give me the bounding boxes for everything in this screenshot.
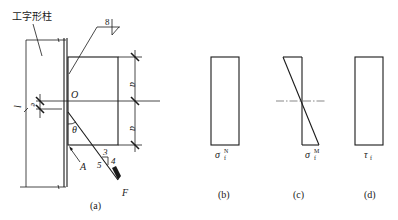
slope-4-label: 4 [111, 156, 116, 166]
caption-a: (a) [90, 200, 101, 212]
sigma-m-sub: f [314, 155, 316, 161]
slope-triangle [102, 157, 108, 165]
sigma-n-symbol: σ [215, 149, 221, 160]
column-label: 工字形柱 [12, 10, 52, 22]
flange-tick-bottom [58, 185, 59, 189]
slope-5-label: 5 [97, 160, 102, 170]
panel-c: σ M f (c) [276, 57, 325, 201]
dim-e-label: e [29, 103, 38, 107]
dim-l-label: l [12, 105, 23, 108]
panel-b: σ N f (b) [211, 57, 239, 201]
sigma-n-sub: f [224, 155, 226, 161]
sigma-m-sup: M [314, 148, 320, 154]
weld-leader [69, 27, 97, 74]
point-a-arrow-icon [69, 146, 73, 151]
weld-connection-diagram: a a e l 工字形柱 8 O F θ 3 4 5 [0, 0, 398, 220]
stress-diagram-shear [355, 57, 383, 145]
dim-a-top-label: a [128, 82, 139, 87]
sigma-m-symbol: σ [305, 149, 311, 160]
stress-diagram-normal [211, 57, 239, 145]
weld-size-label: 8 [105, 17, 110, 27]
dim-a-bottom-label: a [128, 126, 139, 131]
tau-sub: f [370, 155, 372, 161]
sigma-n-sup: N [224, 148, 229, 154]
angle-theta-label: θ [72, 124, 77, 135]
point-a-label: A [79, 161, 87, 172]
panel-a: a a e l 工字形柱 8 O F θ 3 4 5 [12, 10, 160, 212]
flange-tick-top [58, 38, 59, 42]
tau-symbol: τ [364, 149, 368, 160]
force-label: F [121, 187, 129, 198]
point-o-label: O [71, 89, 78, 100]
caption-b: (b) [218, 189, 230, 201]
caption-d: (d) [364, 189, 376, 201]
slope-3-label: 3 [102, 147, 108, 157]
panel-d: τ f (d) [355, 57, 383, 201]
caption-c: (c) [293, 189, 304, 201]
